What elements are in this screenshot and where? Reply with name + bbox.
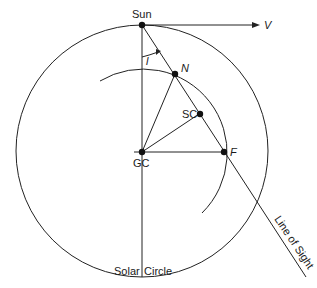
solar-circle-label-right: Circle: [144, 265, 172, 277]
line-of-sight-label: Line of Sight: [272, 213, 316, 270]
diagram-svg: Sun V l N SC GC F Line of Sight Solar Ci…: [0, 0, 317, 288]
angle-arc: [142, 52, 158, 57]
gc-label: GC: [133, 157, 150, 169]
inner-arc: [100, 69, 227, 213]
galactic-geometry-diagram: Sun V l N SC GC F Line of Sight Solar Ci…: [0, 0, 317, 288]
velocity-arrowhead: [252, 22, 260, 28]
n-label: N: [181, 62, 189, 74]
solar-circle-label-left: Solar: [114, 265, 140, 277]
sc-label: SC: [182, 108, 197, 120]
f-label: F: [230, 146, 238, 158]
angle-label: l: [146, 55, 149, 67]
gc-n-line: [142, 74, 175, 152]
sc-point: [197, 111, 203, 117]
n-point: [172, 71, 178, 77]
sun-point: [139, 22, 145, 28]
velocity-label: V: [264, 19, 273, 31]
gc-point: [139, 149, 145, 155]
sun-label: Sun: [132, 8, 152, 20]
f-point: [221, 149, 227, 155]
